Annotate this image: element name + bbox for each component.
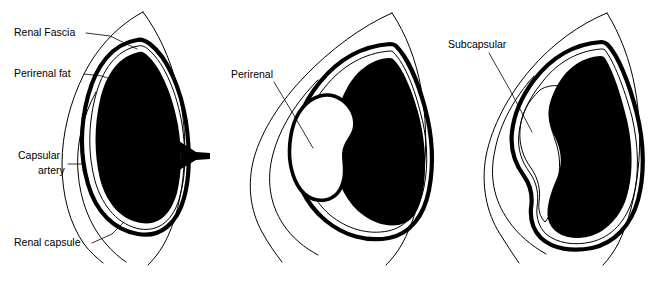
figure-canvas: Renal Fascia Perirenal fat Capsular arte… (0, 0, 653, 282)
label-perirenal: Perirenal (231, 68, 273, 80)
label-capsular-artery-line1: Capsular (18, 149, 61, 161)
label-capsular-artery-line2: artery (38, 164, 66, 176)
renal-hematoma-figure: Renal Fascia Perirenal fat Capsular arte… (0, 0, 653, 282)
label-subcapsular: Subcapsular (448, 38, 507, 50)
label-renal-fascia: Renal Fascia (14, 26, 75, 38)
label-perirenal-fat: Perirenal fat (14, 67, 71, 79)
label-renal-capsule: Renal capsule (14, 236, 81, 248)
